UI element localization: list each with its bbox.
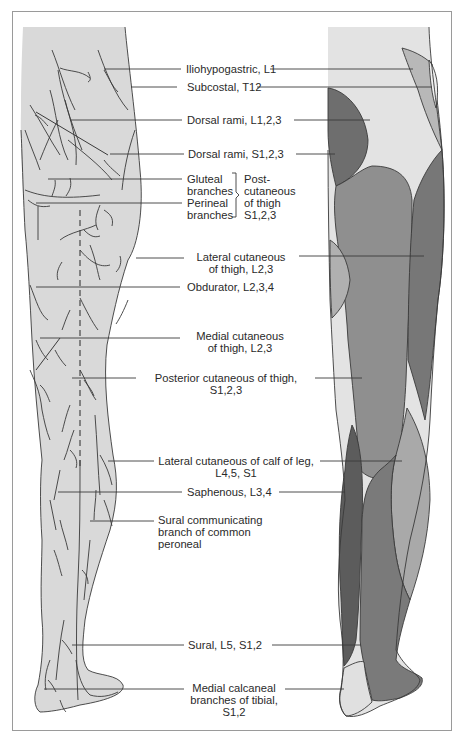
label-sural-communicating-2: branch of common [158, 526, 251, 538]
left-leg-nerves [21, 27, 141, 712]
label-iliohypogastric: Iliohypogastric, L1 [186, 63, 276, 75]
label-medial-calcaneal-2: branches of tibial, [186, 694, 282, 706]
left-leg-silhouette [21, 27, 141, 712]
label-medial-cutaneous-thigh-2: of thigh, L2,3 [184, 342, 296, 354]
label-lateral-cutaneous-calf-2: L4,5, S1 [155, 467, 317, 479]
label-post-cut-3: of thigh [244, 197, 281, 209]
label-saphenous: Saphenous, L3,4 [187, 486, 272, 498]
label-lateral-cutaneous-calf-1: Lateral cutaneous of calf of leg, [155, 455, 317, 467]
label-perineal-2: branches [187, 209, 233, 221]
label-post-cut-1: Post- [244, 173, 270, 185]
label-subcostal: Subcostal, T12 [187, 81, 261, 93]
right-leg-dermatomes [328, 27, 444, 717]
dermatome-diagram: Iliohypogastric, L1 Subcostal, T12 Dorsa… [0, 0, 464, 738]
label-sural-communicating-3: peroneal [158, 538, 202, 550]
label-dorsal-rami-sacral: Dorsal rami, S1,2,3 [188, 148, 284, 160]
label-posterior-cutaneous-thigh-1: Posterior cutaneous of thigh, [140, 372, 312, 384]
label-perineal-1: Perineal [187, 197, 228, 209]
label-lateral-cutaneous-thigh-1: Lateral cutaneous [186, 251, 296, 263]
label-post-cut-4: S1,2,3 [244, 209, 276, 221]
label-post-cut-2: cutaneous [244, 185, 296, 197]
label-lateral-cutaneous-thigh-2: of thigh, L2,3 [186, 263, 296, 275]
label-medial-cutaneous-thigh-1: Medial cutaneous [184, 330, 296, 342]
label-sural-communicating-1: Sural communicating [158, 514, 262, 526]
leg-illustrations [0, 0, 464, 738]
label-medial-calcaneal-3: S1,2 [186, 706, 282, 718]
label-posterior-cutaneous-thigh-2: S1,2,3 [140, 384, 312, 396]
label-dorsal-rami-lumbar: Dorsal rami, L1,2,3 [187, 114, 282, 126]
label-gluteal-2: branches [187, 185, 233, 197]
label-obdurator: Obdurator, L2,3,4 [187, 281, 274, 293]
label-sural: Sural, L5, S1,2 [188, 639, 262, 651]
label-medial-calcaneal-1: Medial calcaneal [186, 682, 282, 694]
label-gluteal-1: Gluteal [187, 173, 222, 185]
